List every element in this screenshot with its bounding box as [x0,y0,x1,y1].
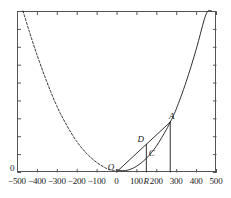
plot-canvas [0,0,231,198]
x-tick-label: −500 [8,176,26,186]
plot-frame [18,12,216,172]
x-tick-label: −200 [68,176,86,186]
series-parabola-solid-branch [117,10,212,170]
point-label-r: R [144,176,150,186]
y-axis-zero-label: 0 [10,163,15,173]
point-label-o: O [108,162,115,172]
data-series-group [23,10,212,172]
x-tick-label: 0 [114,176,118,186]
series-chord-O-to-A [117,122,171,172]
x-tick-label: −100 [88,176,106,186]
point-label-d: D [138,134,145,144]
x-tick-label: 500 [210,176,223,186]
parabola-figure: −500−400−300−200−1000100200300400500 0 O… [0,0,231,198]
x-tick-label: 100 [130,176,143,186]
series-parabola-dashed-branch [23,11,117,170]
x-tick-label: 200 [150,176,163,186]
point-label-a: A [169,111,175,121]
x-tick-label: −300 [48,176,66,186]
x-tick-label: −400 [28,176,46,186]
x-tick-label: 300 [170,176,183,186]
y-axis-ticks-left [18,12,22,173]
point-label-c: C [149,148,155,158]
x-tick-label: 400 [190,176,203,186]
x-axis-ticks-top [18,12,217,16]
